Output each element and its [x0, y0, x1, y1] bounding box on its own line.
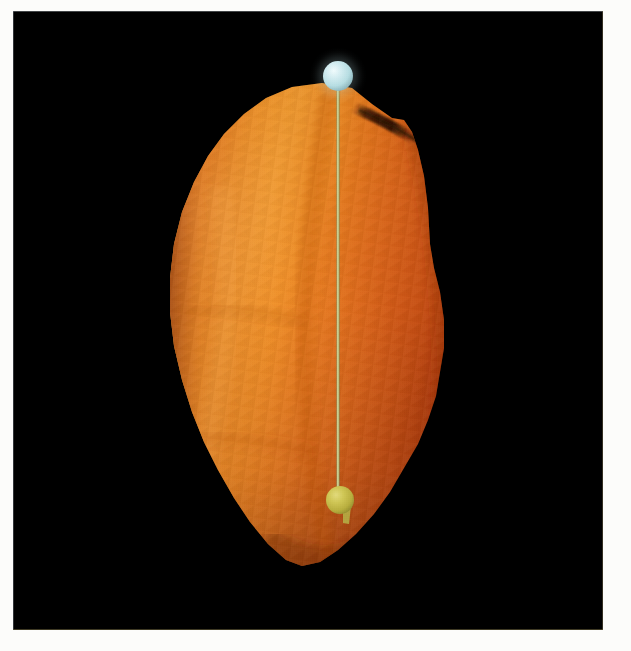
viewport-edge-right: [602, 11, 603, 630]
north-pole-marker: [318, 56, 358, 96]
viewport-edge-top: [13, 11, 603, 12]
north-pole-sphere: [323, 61, 353, 91]
render-viewport: [13, 11, 603, 630]
south-pole-sphere: [326, 486, 354, 514]
viewport-edge-bottom: [13, 629, 603, 630]
rotation-axis: [337, 76, 340, 500]
figure-root: [0, 0, 631, 651]
shape-model-render: [13, 11, 603, 630]
viewport-edge-left: [13, 11, 14, 630]
rotation-axis-line: [337, 76, 340, 500]
